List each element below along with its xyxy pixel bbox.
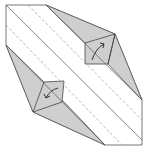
origami-diagram	[0, 0, 151, 150]
